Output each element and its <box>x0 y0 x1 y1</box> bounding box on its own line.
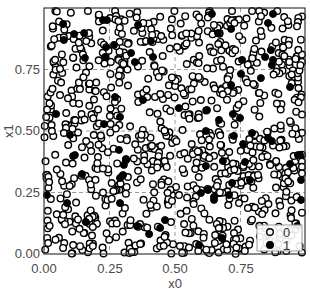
data-point-0 <box>54 8 61 15</box>
y-tick-label: 0.50 <box>15 123 40 138</box>
data-point-0 <box>52 236 59 243</box>
data-point-0 <box>76 226 83 233</box>
data-point-0 <box>179 250 186 257</box>
data-point-1 <box>101 121 108 128</box>
data-point-1 <box>66 131 73 138</box>
data-point-0 <box>161 127 168 134</box>
data-point-0 <box>264 153 271 160</box>
data-point-0 <box>235 102 242 109</box>
data-point-0 <box>295 47 302 54</box>
data-point-1 <box>102 54 109 61</box>
data-point-0 <box>81 116 88 123</box>
data-point-0 <box>107 71 114 78</box>
data-point-0 <box>140 197 147 204</box>
data-point-0 <box>299 164 306 171</box>
data-point-0 <box>241 22 248 29</box>
data-point-0 <box>252 204 259 211</box>
data-point-0 <box>98 132 105 139</box>
data-point-0 <box>154 203 161 210</box>
data-point-1 <box>115 146 122 153</box>
data-point-0 <box>219 150 226 157</box>
data-point-1 <box>226 192 233 199</box>
data-point-1 <box>128 50 135 57</box>
data-point-1 <box>298 196 305 203</box>
data-point-0 <box>257 144 264 151</box>
data-point-0 <box>285 18 292 25</box>
data-point-0 <box>251 106 258 113</box>
data-point-0 <box>52 57 59 64</box>
data-point-0 <box>206 155 213 162</box>
data-point-0 <box>131 155 138 162</box>
data-point-0 <box>88 148 95 155</box>
data-point-0 <box>155 74 162 81</box>
data-point-0 <box>174 44 181 51</box>
data-point-0 <box>236 33 243 40</box>
data-point-0 <box>184 61 191 68</box>
data-point-0 <box>83 38 90 45</box>
data-point-0 <box>49 23 56 30</box>
data-point-0 <box>117 136 124 143</box>
data-point-1 <box>216 116 223 123</box>
data-point-1 <box>246 177 253 184</box>
data-point-0 <box>220 91 227 98</box>
data-point-0 <box>100 165 107 172</box>
data-point-0 <box>206 136 213 143</box>
data-point-0 <box>195 28 202 35</box>
data-point-0 <box>68 9 75 16</box>
data-point-0 <box>163 164 170 171</box>
data-point-1 <box>219 158 226 165</box>
data-point-1 <box>134 223 141 230</box>
data-point-0 <box>177 243 184 250</box>
data-point-0 <box>146 109 153 116</box>
data-point-1 <box>71 152 78 159</box>
data-point-0 <box>63 159 70 166</box>
data-point-0 <box>110 188 117 195</box>
data-point-0 <box>283 189 290 196</box>
data-point-0 <box>255 172 262 179</box>
data-point-0 <box>70 54 77 61</box>
data-point-0 <box>215 41 222 48</box>
data-point-0 <box>42 246 49 253</box>
data-point-0 <box>151 63 158 70</box>
data-point-0 <box>86 80 93 87</box>
data-point-0 <box>288 215 295 222</box>
data-point-0 <box>176 192 183 199</box>
data-point-0 <box>119 228 126 235</box>
x-axis-ticks: 0.00 0.25 0.50 0.75 <box>31 261 253 276</box>
data-point-0 <box>160 243 167 250</box>
data-point-0 <box>225 202 232 209</box>
data-point-0 <box>92 177 99 184</box>
data-point-1 <box>111 41 118 48</box>
scatter-chart: 0.00 0.25 0.50 0.75 0.00 0.25 0.50 0.75 … <box>0 0 310 293</box>
data-point-1 <box>131 59 138 66</box>
data-point-0 <box>169 198 176 205</box>
data-point-0 <box>198 97 205 104</box>
data-point-1 <box>268 62 275 69</box>
data-point-0 <box>132 141 139 148</box>
data-point-0 <box>70 242 77 249</box>
data-point-0 <box>182 13 189 20</box>
data-point-0 <box>72 117 79 124</box>
data-point-0 <box>181 221 188 228</box>
data-point-0 <box>256 113 263 120</box>
data-point-0 <box>211 164 218 171</box>
data-point-0 <box>75 216 82 223</box>
data-point-0 <box>183 40 190 47</box>
data-point-0 <box>83 138 90 145</box>
data-point-0 <box>58 79 65 86</box>
data-point-0 <box>150 181 157 188</box>
x-tick-label: 0.75 <box>228 261 253 276</box>
data-point-0 <box>200 234 207 241</box>
data-point-0 <box>190 201 197 208</box>
legend-label-1: 1 <box>283 238 290 253</box>
data-point-0 <box>182 103 189 110</box>
data-point-0 <box>188 86 195 93</box>
data-point-1 <box>238 70 245 77</box>
data-point-0 <box>81 154 88 161</box>
data-point-0 <box>103 230 110 237</box>
data-point-1 <box>112 94 119 101</box>
data-point-0 <box>100 27 107 34</box>
data-point-1 <box>64 200 71 207</box>
data-point-0 <box>236 200 243 207</box>
data-point-0 <box>167 45 174 52</box>
